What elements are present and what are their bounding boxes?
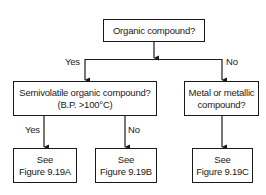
decision-flowchart: Organic compound? Semivolatile organic c…	[0, 0, 266, 195]
node-semivolatile-organic: Semivolatile organic compound? (B.P. >10…	[13, 81, 157, 116]
node-text-line1: See	[118, 154, 134, 166]
node-organic-compound: Organic compound?	[103, 19, 205, 42]
edge-label-root-no: No	[226, 56, 238, 67]
node-text-line1: Semivolatile organic compound?	[19, 87, 150, 99]
edge-label-semi-yes: Yes	[25, 124, 40, 135]
node-text-line2: Figure 9.19B	[100, 166, 152, 178]
node-text-line1: See	[37, 154, 53, 166]
node-metal-compound: Metal or metallic compound?	[184, 81, 259, 116]
node-text-line2: Figure 9.19C	[196, 166, 249, 178]
node-text-line2: (B.P. >100°C)	[57, 99, 112, 111]
node-text-line2: Figure 9.19A	[19, 166, 71, 178]
node-see-figure-9-19a: See Figure 9.19A	[13, 148, 77, 183]
node-text-line1: See	[214, 154, 230, 166]
node-see-figure-9-19c: See Figure 9.19C	[192, 148, 253, 183]
node-see-figure-9-19b: See Figure 9.19B	[95, 148, 157, 183]
node-text: Organic compound?	[113, 25, 195, 37]
edge-label-root-yes: Yes	[65, 56, 80, 67]
node-text-line1: Metal or metallic	[189, 87, 255, 99]
node-text-line2: compound?	[198, 99, 246, 111]
edge-label-semi-no: No	[128, 124, 140, 135]
